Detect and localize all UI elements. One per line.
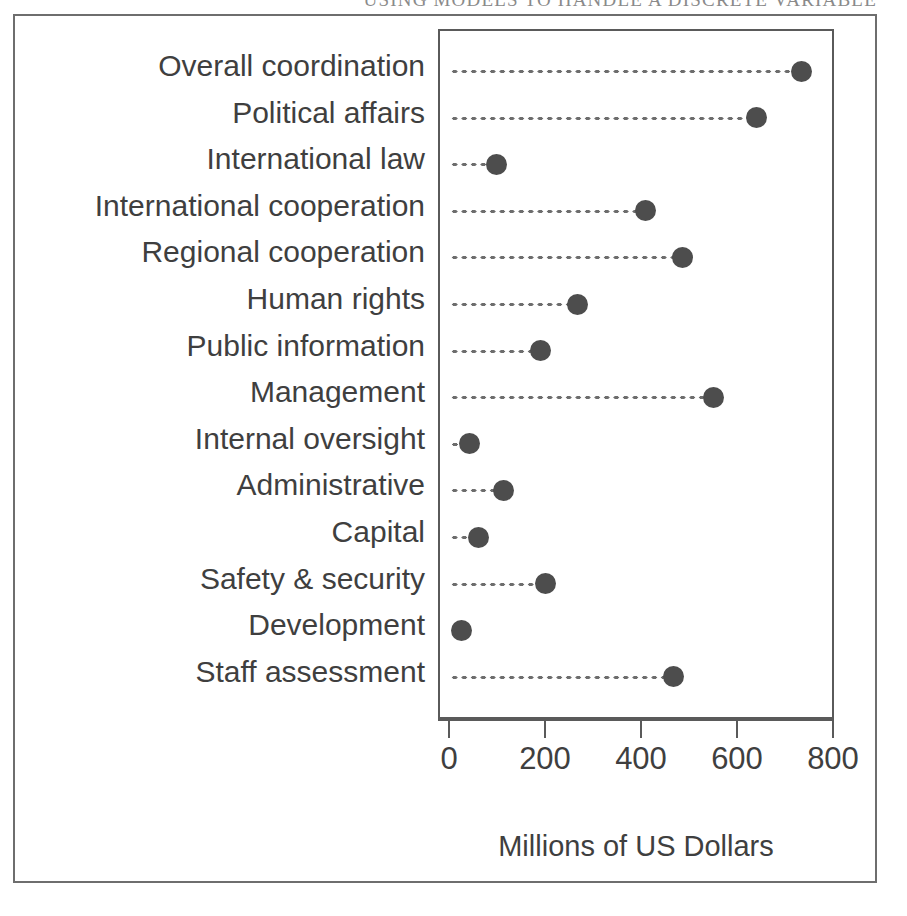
x-tick bbox=[448, 721, 450, 738]
data-point[interactable] bbox=[493, 480, 514, 501]
x-tick-label: 200 bbox=[519, 743, 571, 774]
x-tick-label: 600 bbox=[711, 743, 763, 774]
x-tick bbox=[832, 721, 834, 738]
x-tick-label: 400 bbox=[615, 743, 667, 774]
plot-panel bbox=[438, 29, 834, 719]
category-label: Development bbox=[248, 610, 425, 640]
leader-line bbox=[450, 117, 748, 120]
data-point[interactable] bbox=[663, 666, 684, 687]
x-axis-line bbox=[438, 719, 834, 721]
category-label: Human rights bbox=[247, 284, 425, 314]
data-point[interactable] bbox=[451, 620, 472, 641]
data-point[interactable] bbox=[567, 294, 588, 315]
data-point[interactable] bbox=[791, 61, 812, 82]
category-label: Regional cooperation bbox=[141, 237, 425, 267]
leader-line bbox=[450, 536, 470, 539]
figure-frame: Overall coordinationPolitical affairsInt… bbox=[13, 14, 877, 883]
category-label: Public information bbox=[187, 331, 425, 361]
x-tick-label: 800 bbox=[807, 743, 859, 774]
category-label: Administrative bbox=[237, 470, 425, 500]
leader-line bbox=[450, 163, 487, 166]
leader-line bbox=[450, 396, 705, 399]
data-point[interactable] bbox=[486, 154, 507, 175]
data-point[interactable] bbox=[672, 247, 693, 268]
data-point[interactable] bbox=[635, 200, 656, 221]
x-axis-title: Millions of US Dollars bbox=[438, 831, 834, 861]
x-axis: 0200400600800 bbox=[438, 719, 834, 779]
data-point[interactable] bbox=[535, 573, 556, 594]
leader-line bbox=[450, 489, 494, 492]
category-label: Capital bbox=[332, 517, 425, 547]
category-label: International cooperation bbox=[95, 191, 425, 221]
x-tick bbox=[544, 721, 546, 738]
data-point[interactable] bbox=[746, 107, 767, 128]
data-point[interactable] bbox=[459, 433, 480, 454]
data-point[interactable] bbox=[703, 387, 724, 408]
data-point[interactable] bbox=[530, 340, 551, 361]
category-label: Staff assessment bbox=[195, 657, 425, 687]
leader-line bbox=[450, 210, 636, 213]
leader-line bbox=[450, 350, 531, 353]
category-label: Safety & security bbox=[200, 564, 425, 594]
leader-line bbox=[450, 303, 568, 306]
category-axis: Overall coordinationPolitical affairsInt… bbox=[25, 29, 433, 719]
data-point[interactable] bbox=[468, 527, 489, 548]
x-tick-label: 0 bbox=[440, 743, 457, 774]
leader-line bbox=[450, 70, 793, 73]
running-head-text: USING MODELS TO HANDLE A DISCRETE VARIAB… bbox=[364, 0, 877, 11]
category-label: Internal oversight bbox=[195, 424, 425, 454]
category-label: International law bbox=[207, 144, 425, 174]
category-label: Overall coordination bbox=[158, 51, 425, 81]
x-tick bbox=[640, 721, 642, 738]
x-tick bbox=[736, 721, 738, 738]
leader-line bbox=[450, 676, 665, 679]
category-label: Management bbox=[250, 377, 425, 407]
running-head: USING MODELS TO HANDLE A DISCRETE VARIAB… bbox=[0, 0, 907, 11]
category-label: Political affairs bbox=[232, 98, 425, 128]
leader-line bbox=[450, 583, 536, 586]
leader-line bbox=[450, 256, 673, 259]
